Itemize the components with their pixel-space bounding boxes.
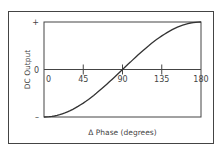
x-tick-label: 135: [154, 75, 169, 84]
phase-detector-chart: 04590135180+0–Δ Phase (degrees)DC Output: [0, 0, 224, 150]
x-tick-label: 90: [117, 75, 127, 84]
y-tick-label: 0: [34, 66, 39, 75]
y-tick-label: +: [32, 18, 39, 27]
x-axis-title: Δ Phase (degrees): [88, 128, 156, 137]
x-tick-label: 0: [46, 75, 51, 84]
y-tick-label: –: [35, 113, 39, 122]
y-axis-title: DC Output: [23, 50, 32, 90]
x-tick-label: 45: [78, 75, 88, 84]
x-tick-label: 180: [193, 75, 208, 84]
